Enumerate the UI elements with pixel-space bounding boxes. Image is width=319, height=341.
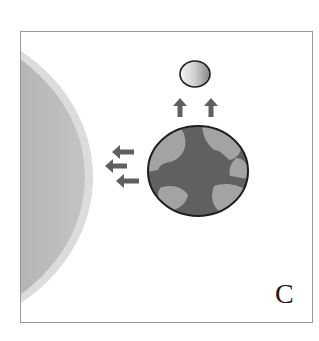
moon-icon xyxy=(180,61,210,87)
earth-icon xyxy=(148,126,250,216)
diagram-svg xyxy=(0,0,319,341)
diagram-panel: C xyxy=(0,0,319,341)
panel-label: C xyxy=(275,280,294,308)
